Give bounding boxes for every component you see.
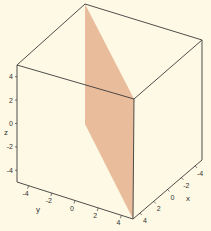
z-tick-label: 0 <box>9 120 13 127</box>
y-tick <box>97 208 98 211</box>
z-tick-label: -4 <box>7 167 13 174</box>
box-edge-top-back-left <box>17 4 85 65</box>
y-tick <box>74 201 75 204</box>
y-tick <box>51 193 52 196</box>
y-tick <box>120 215 121 218</box>
y-tick-label: -2 <box>46 197 52 204</box>
y-tick-label: 0 <box>70 205 74 212</box>
y-tick-label: -4 <box>22 190 28 197</box>
x-tick-label: 4 <box>143 217 147 224</box>
x-axis-label: x <box>186 194 190 203</box>
x-tick-label: 2 <box>157 205 161 212</box>
z-tick-label: -2 <box>7 143 13 150</box>
y-axis-label: y <box>36 205 40 214</box>
box-edge-top-back-right <box>85 4 202 40</box>
x-tick <box>154 201 156 203</box>
x-tick-label: -2 <box>183 182 189 189</box>
x-tick <box>181 178 183 180</box>
y-tick <box>28 186 29 189</box>
box-edge-top-right-front <box>134 40 202 99</box>
x-tick <box>195 166 197 168</box>
z-tick-label: 2 <box>9 97 13 104</box>
x-tick-label: 0 <box>171 194 175 201</box>
plot-3d[interactable]: 420-2-4 -4-2024 -4-2024 z y x <box>0 0 211 231</box>
plane-surface <box>85 4 134 219</box>
x-tick <box>168 190 170 192</box>
x-tick <box>140 213 142 215</box>
y-tick-label: 2 <box>93 212 97 219</box>
y-tick-label: 4 <box>116 219 120 226</box>
x-tick-label: -4 <box>197 170 203 177</box>
z-axis-label: z <box>4 128 8 137</box>
z-tick-label: 4 <box>9 73 13 80</box>
